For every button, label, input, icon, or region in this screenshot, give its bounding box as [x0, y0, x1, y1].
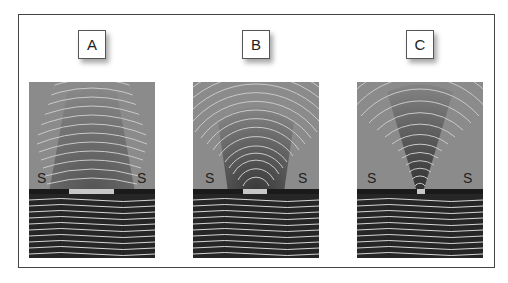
source-label-right-b: S	[298, 170, 307, 186]
panel-label-c: C	[406, 30, 434, 59]
diffraction-panel-c: S S	[357, 82, 483, 258]
source-label-left-b: S	[205, 170, 214, 186]
panel-label-c-text: C	[415, 36, 426, 53]
source-label-left-a: S	[37, 170, 46, 186]
diffraction-panel-b: S S	[193, 82, 319, 258]
panel-label-b-text: B	[251, 36, 261, 53]
source-label-right-c: S	[463, 170, 472, 186]
panel-label-b: B	[242, 30, 270, 59]
diffraction-panel-a: S S	[29, 82, 155, 258]
panel-label-a: A	[78, 30, 106, 59]
panel-label-a-text: A	[87, 36, 97, 53]
source-label-right-a: S	[137, 170, 146, 186]
source-label-left-c: S	[367, 170, 376, 186]
